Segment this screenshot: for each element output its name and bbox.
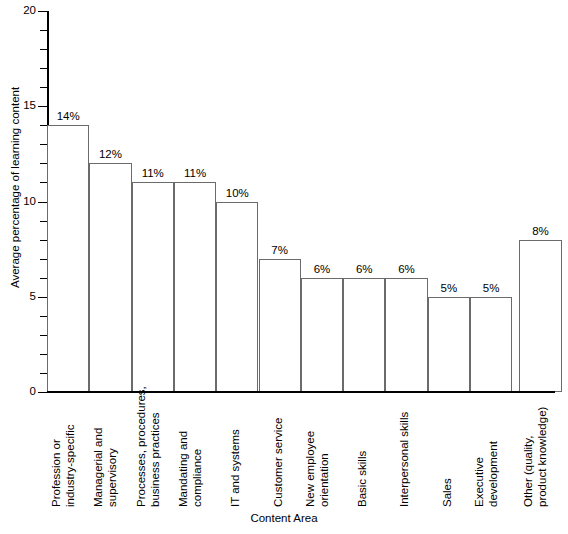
x-axis-category-label-text: Profession orindustry-specific [50, 425, 77, 507]
x-axis-category-label-text: Interpersonal skills [398, 412, 412, 507]
bar [132, 182, 174, 392]
bar-value-label: 12% [89, 148, 131, 160]
x-axis-category-label-line: compliance [190, 431, 204, 507]
x-axis-category-label-text: Processes, procedures,business practices [135, 386, 162, 507]
x-axis-category-labels: Profession orindustry-specificManagerial… [47, 393, 555, 511]
bar [174, 182, 216, 392]
x-axis-category-label-line: orientation [317, 431, 331, 507]
y-axis-minor-tick [40, 49, 47, 50]
x-axis-category-label-line: Managerial and [92, 428, 106, 507]
x-axis-category-label: Processes, procedures,business practices [132, 393, 174, 511]
x-axis-category-label: Managerial andsupervisory [89, 393, 131, 511]
bar [343, 278, 385, 392]
x-axis-category-label: IT and systems [216, 393, 258, 511]
y-axis-tick-label: 5 [2, 291, 36, 303]
x-axis-category-label-line: IT and systems [229, 429, 243, 507]
x-axis-category-label-text: Other (quality,product knowledge) [522, 407, 549, 507]
x-axis-category-label: New employeeorientation [301, 393, 343, 511]
bar [519, 240, 561, 392]
y-axis-minor-tick [40, 144, 47, 145]
y-axis-minor-tick [40, 125, 47, 126]
bar-value-label: 8% [519, 225, 561, 237]
bar-value-label: 5% [470, 282, 512, 294]
bar [47, 125, 89, 392]
y-axis-major-tick [38, 106, 47, 107]
y-axis-minor-tick [40, 68, 47, 69]
y-axis-tick-label: 0 [2, 386, 36, 398]
bar-value-label: 6% [301, 263, 343, 275]
x-axis-category-label: Sales [428, 393, 470, 511]
y-axis-minor-tick [40, 182, 47, 183]
x-axis-category-label-line: Executive [473, 441, 487, 507]
x-axis-category-label-line: supervisory [106, 428, 120, 507]
x-axis-category-label-line: Customer service [272, 418, 286, 507]
x-axis-category-label-text: Mandating andcompliance [177, 431, 204, 507]
x-axis-category-label-text: Basic skills [356, 451, 370, 507]
x-axis-category-label: Profession orindustry-specific [47, 393, 89, 511]
bar [301, 278, 343, 392]
plot-area: 14%12%11%11%10%7%6%6%6%5%5%8% [47, 11, 555, 392]
x-axis-category-label-line: development [487, 441, 501, 507]
x-axis-category-label-line: New employee [304, 431, 318, 507]
x-axis-category-label-line: Sales [441, 478, 455, 507]
bar-chart: 05101520 Average percentage of learning … [0, 0, 568, 534]
x-axis-category-label-text: New employeeorientation [304, 431, 331, 507]
y-axis-minor-tick [40, 87, 47, 88]
x-axis-category-label: Basic skills [343, 393, 385, 511]
x-axis-category-label-text: IT and systems [229, 429, 243, 507]
bar-value-label: 11% [174, 167, 216, 179]
y-axis-minor-tick [40, 221, 47, 222]
bar-value-label: 6% [385, 263, 427, 275]
x-axis-category-label: Mandating andcompliance [174, 393, 216, 511]
x-axis-category-label-line: Basic skills [356, 451, 370, 507]
bar [470, 297, 512, 392]
x-axis-category-label-line: industry-specific [64, 425, 78, 507]
y-axis-minor-tick [40, 259, 47, 260]
bar [259, 259, 301, 392]
y-axis-minor-tick [40, 278, 47, 279]
bar-value-label: 6% [343, 263, 385, 275]
y-axis-minor-tick [40, 240, 47, 241]
x-axis-category-label: Other (quality,product knowledge) [519, 393, 561, 511]
x-axis-category-label-line: Mandating and [177, 431, 191, 507]
x-axis-category-label: Customer service [259, 393, 301, 511]
x-axis-category-label-line: product knowledge) [536, 407, 550, 507]
bar-value-label: 14% [47, 110, 89, 122]
y-axis-major-tick [38, 297, 47, 298]
x-axis-title: Content Area [0, 512, 568, 524]
x-axis-category-label: Interpersonal skills [385, 393, 427, 511]
x-axis-category-label-line: Processes, procedures, [135, 386, 149, 507]
bar-value-label: 10% [216, 187, 258, 199]
x-axis-category-label-line: Profession or [50, 425, 64, 507]
y-axis-minor-tick [40, 30, 47, 31]
x-axis-category-label-text: Sales [441, 478, 455, 507]
y-axis-major-tick [38, 392, 47, 393]
bar [89, 163, 131, 392]
x-axis-category-label-line: business practices [148, 386, 162, 507]
bar-value-label: 11% [132, 167, 174, 179]
y-axis-minor-tick [40, 316, 47, 317]
y-axis-minor-tick [40, 335, 47, 336]
bar [428, 297, 470, 392]
y-axis-major-tick [38, 202, 47, 203]
x-axis-category-label: Executivedevelopment [470, 393, 512, 511]
x-axis-category-label-text: Customer service [272, 418, 286, 507]
x-axis-category-label-line: Other (quality, [522, 407, 536, 507]
y-axis-tick-label: 20 [2, 5, 36, 17]
bar [385, 278, 427, 392]
x-axis-category-label-text: Managerial andsupervisory [92, 428, 119, 507]
bar [216, 202, 258, 393]
bar-value-label: 7% [259, 244, 301, 256]
x-axis-category-label-line: Interpersonal skills [398, 412, 412, 507]
y-axis-minor-tick [40, 373, 47, 374]
x-axis-category-label-text: Executivedevelopment [473, 441, 500, 507]
y-axis-major-tick [38, 11, 47, 12]
y-axis-minor-tick [40, 163, 47, 164]
y-axis-minor-tick [40, 354, 47, 355]
y-axis-title: Average percentage of learning content [9, 88, 21, 288]
bar-value-label: 5% [428, 282, 470, 294]
